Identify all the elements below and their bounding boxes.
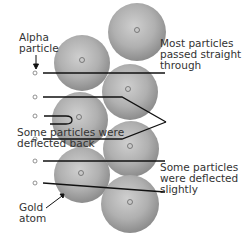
label-line: atom [19,213,46,224]
alpha-particle-icon [33,71,37,75]
gold-atom-pointer-icon [46,196,62,208]
gold-atom-sphere [54,35,110,91]
label-deflected-back: Some particles were deflected back [17,127,124,149]
alpha-particle-icon [33,95,37,99]
label-line: deflected back [17,138,124,149]
arrow-head-icon [34,64,39,69]
gold-atoms [52,3,166,233]
gold-atom-sphere [108,3,166,61]
label-deflected-slightly: Some particles were deflected slightly [160,162,238,195]
label-gold-atom: Gold atom [19,202,46,224]
alpha-particle-icon [33,181,37,185]
label-line: particle [19,43,59,54]
gold-atom-sphere [101,175,159,233]
alpha-particle-icon [33,159,37,163]
alpha-particle-icon [33,114,37,118]
label-most-straight: Most particles passed straight through [160,38,241,71]
label-line: through [160,60,241,71]
label-alpha-particle: Alpha particle [19,32,59,54]
label-line: slightly [160,184,238,195]
